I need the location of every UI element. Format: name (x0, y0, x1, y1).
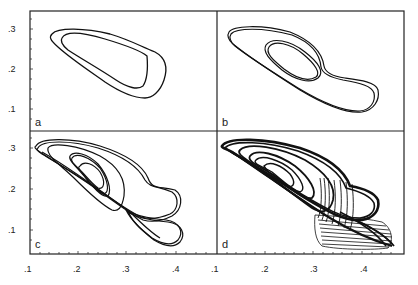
x-tick-label: .4 (172, 264, 180, 274)
y-tick-label: .1 (8, 104, 16, 114)
y-tick-label: .3 (8, 143, 16, 153)
x-tick-labels: .1 .2 .3 .4 .1 .2 .3 .4 (24, 264, 368, 274)
panel-c-trajectory (35, 140, 183, 246)
panel-b-trajectory (228, 27, 378, 112)
x-tick-label: .1 (211, 264, 219, 274)
panel-label-b: b (222, 116, 228, 128)
figure: .3 .2 .1 .3 .2 .1 .1 .2 .3 .4 .1 .2 .3 .… (0, 0, 418, 285)
y-tick-label: .3 (8, 24, 16, 34)
panel-label-c: c (35, 238, 41, 250)
x-tick-label: .1 (24, 264, 32, 274)
x-tick-label: .3 (122, 264, 130, 274)
panel-label-d: d (222, 238, 228, 250)
x-tick-label: .2 (261, 264, 269, 274)
panel-label-a: a (35, 116, 42, 128)
y-tick-label: .2 (8, 184, 16, 194)
x-tick-label: .2 (73, 264, 81, 274)
x-tick-label: .4 (360, 264, 368, 274)
y-tick-label: .2 (8, 64, 16, 74)
panel-a-trajectory (50, 29, 165, 98)
x-tick-label: .3 (310, 264, 318, 274)
y-tick-labels: .3 .2 .1 .3 .2 .1 (8, 24, 16, 235)
y-tick-label: .1 (8, 225, 16, 235)
panel-d-trajectory (222, 140, 394, 249)
